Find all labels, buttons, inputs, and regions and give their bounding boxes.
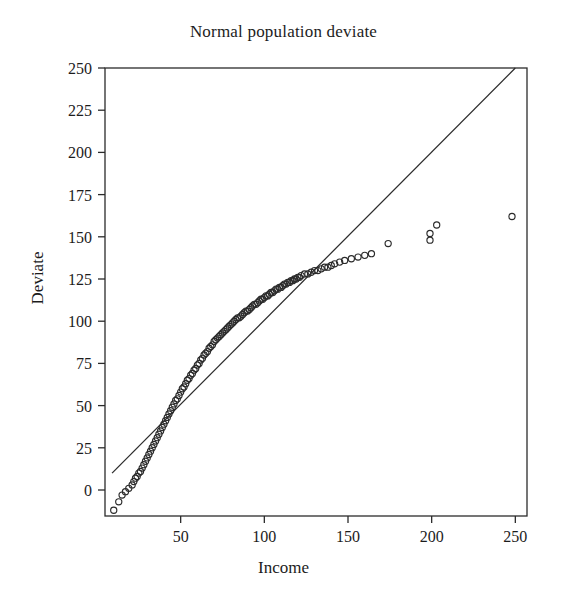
data-point xyxy=(427,237,433,243)
x-tick-label: 250 xyxy=(503,528,527,545)
y-tick-label: 175 xyxy=(68,187,92,204)
y-tick-label: 250 xyxy=(68,60,92,77)
data-point xyxy=(111,507,117,513)
y-tick-label: 25 xyxy=(76,440,92,457)
data-point xyxy=(355,254,361,260)
data-point xyxy=(427,230,433,236)
data-point xyxy=(434,222,440,228)
x-tick-label: 150 xyxy=(336,528,360,545)
y-tick-label: 0 xyxy=(84,482,92,499)
chart-figure: Normal population deviate Deviate Income… xyxy=(0,0,567,597)
plot-frame xyxy=(105,68,527,516)
y-tick-label: 75 xyxy=(76,355,92,372)
y-tick-label: 125 xyxy=(68,271,92,288)
data-point xyxy=(368,251,374,257)
y-axis-ticks: 0255075100125150175200225250 xyxy=(68,60,105,499)
y-tick-label: 150 xyxy=(68,229,92,246)
data-points xyxy=(111,213,515,513)
y-tick-label: 100 xyxy=(68,313,92,330)
y-tick-label: 225 xyxy=(68,102,92,119)
x-tick-label: 50 xyxy=(173,528,189,545)
x-tick-label: 100 xyxy=(252,528,276,545)
data-point xyxy=(348,256,354,262)
y-tick-label: 200 xyxy=(68,144,92,161)
y-tick-label: 50 xyxy=(76,398,92,415)
scatter-plot-canvas: 50100150200250 0255075100125150175200225… xyxy=(0,0,567,597)
x-tick-label: 200 xyxy=(420,528,444,545)
data-point xyxy=(509,213,515,219)
x-axis-ticks: 50100150200250 xyxy=(173,516,528,545)
data-point xyxy=(362,252,368,258)
data-point xyxy=(385,240,391,246)
data-point xyxy=(116,499,122,505)
